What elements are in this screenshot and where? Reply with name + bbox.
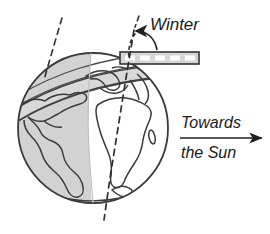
earth-winter-tilt-diagram: Winter Towards the Sun [0,0,270,234]
winter-label: Winter [150,15,200,34]
axis-upper-tick-dash [135,16,139,27]
towards-sun-label-line1: Towards [181,114,241,131]
orbital-plane-band [120,52,199,64]
earth-globe [8,45,180,212]
night-shaded-hemisphere [18,45,92,212]
towards-sun-label-line2: the Sun [181,144,236,161]
towards-sun-arrow: Towards the Sun [180,114,262,161]
